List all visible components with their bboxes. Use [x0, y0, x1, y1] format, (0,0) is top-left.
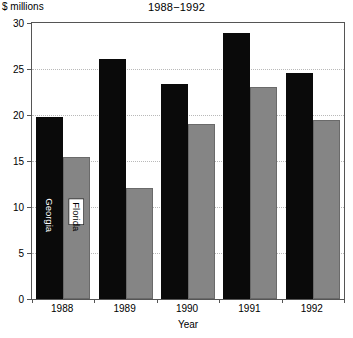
x-tick-label-1990: 1990 [176, 303, 198, 314]
plot-inner: 051015202530GeorgiaFlorida [32, 23, 344, 299]
gridline [32, 69, 344, 70]
y-tick-label: 30 [13, 18, 24, 29]
bar-florida-1990 [188, 124, 215, 299]
y-tick-mark [27, 115, 32, 116]
bar-georgia-1989 [99, 59, 126, 299]
y-tick-mark [27, 23, 32, 24]
x-tick-mark [344, 299, 345, 303]
y-tick-label: 15 [13, 156, 24, 167]
bar-florida-1991 [250, 87, 277, 299]
series-label-florida: Florida [63, 204, 90, 220]
bar-chart: $ millions 1988−1992 051015202530Georgia… [0, 0, 353, 338]
bar-florida-1989 [126, 188, 153, 299]
x-tick-label-1988: 1988 [51, 303, 73, 314]
bar-georgia-1992 [286, 73, 313, 299]
x-tick-label-1989: 1989 [113, 303, 135, 314]
plot-area: 051015202530GeorgiaFlorida [31, 22, 345, 300]
y-tick-mark [27, 253, 32, 254]
bar-florida-1992 [313, 120, 340, 299]
bar-georgia-1990 [161, 84, 188, 299]
x-tick-mark [94, 299, 95, 303]
x-tick-mark [32, 299, 33, 303]
x-tick-label-1992: 1992 [301, 303, 323, 314]
chart-title: 1988−1992 [0, 1, 353, 13]
y-tick-mark [27, 69, 32, 70]
y-tick-label: 20 [13, 110, 24, 121]
y-tick-mark [27, 161, 32, 162]
y-tick-label: 10 [13, 202, 24, 213]
x-tick-mark [157, 299, 158, 303]
y-tick-label: 5 [18, 248, 24, 259]
x-axis-title: Year [31, 319, 345, 330]
bar-georgia-1991 [223, 33, 250, 299]
gridline [32, 299, 344, 300]
series-label-georgia: Georgia [36, 207, 63, 217]
y-tick-label: 25 [13, 64, 24, 75]
y-tick-label: 0 [18, 294, 24, 305]
x-tick-label-1991: 1991 [238, 303, 260, 314]
x-tick-mark [282, 299, 283, 303]
y-tick-mark [27, 207, 32, 208]
x-tick-mark [219, 299, 220, 303]
